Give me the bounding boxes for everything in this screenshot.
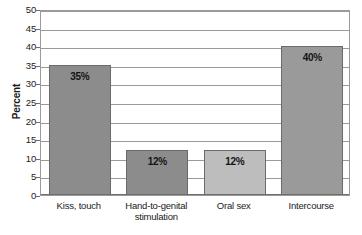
bar: 12% [204,150,266,195]
y-tick-label: 35 [10,61,36,71]
y-tick-label: 15 [10,135,36,145]
bar: 35% [49,65,111,195]
y-tick: 20 [0,122,36,123]
y-tick-label: 30 [10,79,36,89]
y-tick-label: 5 [10,172,36,182]
y-tick: 50 [0,10,36,11]
y-tick: 35 [0,66,36,67]
y-tick-label: 20 [10,117,36,127]
y-tick-label: 10 [10,154,36,164]
y-tick: 45 [0,29,36,30]
bar-chart: Percent 50454035302520151050 35%12%12%40… [0,0,362,235]
x-axis-label: Kiss, touch [40,200,118,211]
axis-baseline [41,194,349,195]
gridline [41,11,349,12]
x-axis-label-line: Oral sex [195,200,273,211]
y-tick-mark [36,196,40,197]
bar-value-label: 12% [205,156,265,167]
y-tick: 0 [0,196,36,197]
y-tick: 30 [0,84,36,85]
x-axis-label-line: Kiss, touch [40,200,118,211]
y-tick-label: 45 [10,24,36,34]
y-tick: 5 [0,177,36,178]
y-tick: 40 [0,47,36,48]
x-axis-label-line: stimulation [118,211,196,222]
y-tick: 15 [0,140,36,141]
bar: 40% [281,46,343,195]
y-tick-label: 40 [10,42,36,52]
y-tick-label: 50 [10,5,36,15]
plot-area: 35%12%12%40% [40,10,350,196]
bar-value-label: 12% [127,156,187,167]
y-tick-label: 0 [10,191,36,201]
y-tick: 25 [0,103,36,104]
y-tick-label: 25 [10,98,36,108]
gridline [41,30,349,31]
x-axis-label-line: Intercourse [273,200,351,211]
x-axis-label-line: Hand-to-genital [118,200,196,211]
y-tick: 10 [0,159,36,160]
bar-value-label: 40% [282,52,342,63]
x-axis-label: Oral sex [195,200,273,211]
bar: 12% [126,150,188,195]
x-axis-label: Intercourse [273,200,351,211]
bar-value-label: 35% [50,71,110,82]
x-axis-label: Hand-to-genitalstimulation [118,200,196,222]
